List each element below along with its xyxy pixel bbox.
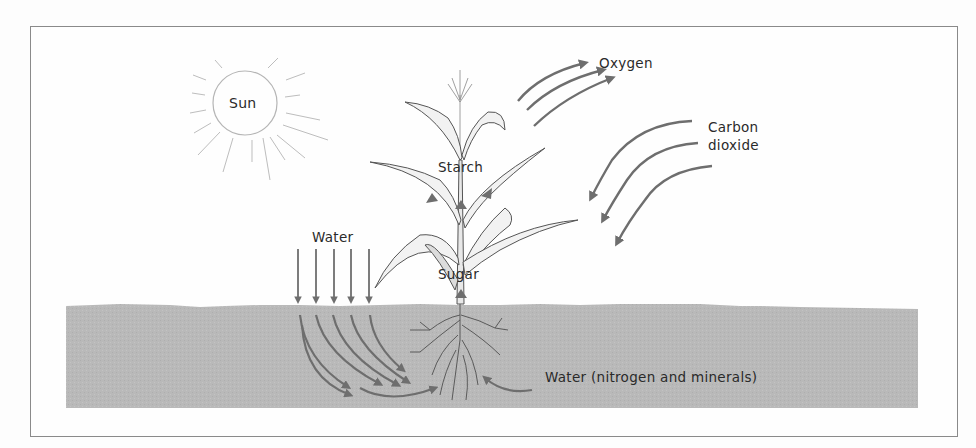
carbon-dioxide-label-line2: dioxide bbox=[708, 137, 759, 153]
sun-label: Sun bbox=[229, 95, 257, 111]
diagram-art bbox=[0, 0, 976, 448]
sun-icon bbox=[190, 58, 328, 180]
water-soil-label: Water (nitrogen and minerals) bbox=[545, 369, 757, 385]
carbon-dioxide-label-line1: Carbon bbox=[708, 119, 758, 135]
soil bbox=[66, 304, 918, 408]
oxygen-arrows bbox=[518, 63, 612, 126]
oxygen-label: Oxygen bbox=[599, 55, 653, 71]
water-rain-arrows bbox=[298, 249, 369, 301]
starch-label: Starch bbox=[438, 159, 483, 175]
carbon-dioxide-arrows bbox=[591, 121, 712, 243]
water-rain-label: Water bbox=[312, 229, 353, 245]
sugar-label: Sugar bbox=[438, 266, 479, 282]
